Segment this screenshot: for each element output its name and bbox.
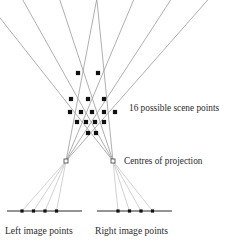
left-image-point bbox=[55, 209, 58, 212]
label-centres-of-projection: Centres of projection bbox=[124, 156, 203, 166]
scene-point bbox=[94, 131, 98, 135]
scene-point bbox=[113, 110, 117, 114]
right-centre-of-projection bbox=[111, 159, 115, 163]
label-scene-points: 16 possible scene points bbox=[129, 103, 220, 113]
scene-point bbox=[84, 120, 88, 124]
right-image-point bbox=[116, 209, 119, 212]
projection-rays-group bbox=[22, 161, 153, 211]
right-scene-ray bbox=[0, 0, 113, 161]
scene-point bbox=[75, 120, 79, 124]
left-centre-of-projection bbox=[64, 159, 68, 163]
label-left-image-points: Left image points bbox=[5, 225, 73, 236]
right-scene-ray bbox=[8, 0, 113, 161]
scene-point bbox=[86, 131, 90, 135]
scene-point bbox=[76, 71, 80, 75]
scene-point bbox=[68, 110, 72, 114]
scene-point bbox=[102, 120, 106, 124]
scene-point bbox=[69, 97, 73, 101]
right-image-point bbox=[139, 209, 142, 212]
right-projection-ray bbox=[113, 161, 153, 211]
left-scene-ray bbox=[66, 0, 183, 161]
right-scene-ray bbox=[92, 0, 113, 161]
scene-point bbox=[102, 97, 106, 101]
scene-point bbox=[102, 110, 106, 114]
scene-point bbox=[93, 120, 97, 124]
left-scene-ray bbox=[66, 0, 208, 161]
scene-point bbox=[79, 110, 83, 114]
camera-centres-group bbox=[64, 159, 115, 163]
stereo-diagram-figure: 16 possible scene points Centres of proj… bbox=[0, 0, 234, 247]
left-image-point bbox=[32, 209, 35, 212]
scene-point bbox=[86, 97, 90, 101]
scene-point bbox=[90, 110, 94, 114]
right-scene-ray bbox=[46, 0, 113, 161]
label-right-image-points: Right image points bbox=[95, 225, 168, 236]
stereo-geometry-svg: 16 possible scene points Centres of proj… bbox=[0, 0, 234, 247]
left-projection-ray bbox=[45, 161, 66, 211]
left-projection-ray bbox=[22, 161, 66, 211]
left-image-point bbox=[43, 209, 46, 212]
left-image-point bbox=[20, 209, 23, 212]
right-image-point bbox=[128, 209, 131, 212]
scene-rays-group bbox=[0, 0, 208, 161]
right-image-point bbox=[151, 209, 154, 212]
scene-point bbox=[96, 71, 100, 75]
